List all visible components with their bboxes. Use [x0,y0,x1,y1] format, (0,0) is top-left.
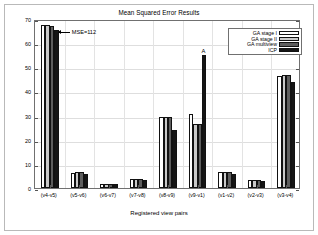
bar [202,55,206,188]
x-tick-label: (v1-v2) [218,192,234,198]
x-tick-mark [227,185,228,188]
legend-item: ICP [231,47,299,53]
y-tick-mark [35,21,38,22]
x-tick-mark [198,185,199,188]
x-tick-label: (v4-v5) [41,192,57,198]
y-tick-mark [296,21,299,22]
bar-group [128,21,148,188]
x-tick-label: (v2-v3) [248,192,264,198]
x-tick-mark [109,185,110,188]
chart-legend: GA stage IGA stage IIGA multiviewICP [228,28,302,55]
y-tick-mark [35,45,38,46]
chart-figure: Mean Squared Error Results 0102030405060… [0,0,318,235]
bar [113,184,117,188]
bar [291,82,295,188]
x-tick-mark [168,185,169,188]
y-tick-mark [296,190,299,191]
y-tick-label: 50 [15,65,31,71]
chart-title: Mean Squared Error Results [0,9,318,16]
x-tick-label: (v9-v1) [188,192,204,198]
x-tick-label: (v5-v6) [70,192,86,198]
x-tick-label: (v6-v7) [100,192,116,198]
legend-swatch [279,42,299,46]
x-axis-label: Registered view pairs [0,210,318,216]
y-tick-label: 10 [15,162,31,168]
x-tick-label: (v8-v9) [159,192,175,198]
y-tick-mark [296,166,299,167]
bar-group [40,21,60,188]
y-tick-label: 60 [15,41,31,47]
x-tick-mark [50,185,51,188]
y-tick-label: 70 [15,17,31,23]
x-tick-mark [286,185,287,188]
legend-swatch [279,37,299,41]
vertical-gridline [183,21,184,188]
y-tick-mark [296,142,299,143]
bar [143,180,147,188]
bar-group [99,21,119,188]
point-a-annotation-label: A [202,48,206,54]
y-tick-label: 40 [15,89,31,95]
bar [232,174,236,188]
x-tick-mark [138,185,139,188]
y-tick-label: 30 [15,114,31,120]
mse-annotation-label: MSE=112 [72,29,96,35]
x-tick-mark [257,185,258,188]
legend-swatch [279,48,299,52]
mse-annotation-arrow [59,32,70,33]
bar [54,30,58,188]
y-tick-mark [35,166,38,167]
vertical-gridline [65,21,66,188]
bar-group [158,21,178,188]
y-tick-label: 0 [15,186,31,192]
x-tick-label: (v3-v4) [277,192,293,198]
x-tick-mark [79,185,80,188]
x-tick-label: (v7-v8) [129,192,145,198]
legend-swatch [279,31,299,35]
y-tick-mark [296,93,299,94]
y-tick-mark [35,69,38,70]
vertical-gridline [94,21,95,188]
y-tick-mark [296,118,299,119]
bar [261,181,265,188]
y-tick-mark [296,69,299,70]
vertical-gridline [212,21,213,188]
bar-group [188,21,208,188]
vertical-gridline [153,21,154,188]
y-tick-mark [35,93,38,94]
y-tick-mark [35,142,38,143]
bar-group [69,21,89,188]
y-tick-mark [35,190,38,191]
y-tick-label: 20 [15,138,31,144]
vertical-gridline [124,21,125,188]
y-tick-mark [35,118,38,119]
legend-item-label: ICP [268,47,277,53]
bar [172,130,176,188]
bar [84,174,88,188]
